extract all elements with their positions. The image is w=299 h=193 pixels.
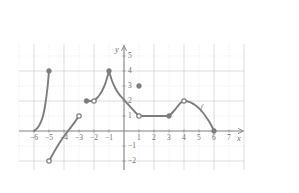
x-tick-label: 7 xyxy=(227,134,231,142)
closed-point-marker xyxy=(107,69,112,74)
open-point-marker xyxy=(137,114,141,118)
x-tick-label: 3 xyxy=(167,134,171,142)
x-tick-label: 6 xyxy=(212,134,216,142)
closed-point-marker xyxy=(47,69,52,74)
open-point-marker xyxy=(77,114,81,118)
x-tick-label: −3 xyxy=(75,134,83,142)
x-tick-label: 1 xyxy=(137,134,141,142)
x-tick-label: −2 xyxy=(90,134,98,142)
open-point-marker xyxy=(92,99,96,103)
graph-figure: −6−5−4−3−2−1123456754321−1−2xyf xyxy=(0,0,299,193)
curve-name-label: f xyxy=(201,103,203,111)
y-axis-label: y xyxy=(115,45,119,53)
curve-branch xyxy=(94,71,109,101)
open-point-marker xyxy=(47,159,51,163)
x-tick-label: −6 xyxy=(30,134,38,142)
x-tick-label: 2 xyxy=(152,134,156,142)
x-tick-label: −5 xyxy=(45,134,53,142)
y-tick-label: 4 xyxy=(128,67,132,75)
closed-point-marker xyxy=(137,84,142,89)
x-tick-label: −1 xyxy=(105,134,113,142)
y-tick-label: 3 xyxy=(128,82,132,90)
x-axis-label: x xyxy=(237,134,241,142)
y-tick-label: 1 xyxy=(128,112,132,120)
y-tick-label: 2 xyxy=(128,97,132,105)
x-tick-label: −4 xyxy=(60,134,68,142)
open-point-marker xyxy=(182,99,186,103)
closed-point-marker xyxy=(167,114,172,119)
graph-canvas xyxy=(0,0,299,193)
x-tick-label: 5 xyxy=(197,134,201,142)
x-tick-label: 4 xyxy=(182,134,186,142)
closed-point-marker xyxy=(84,99,89,104)
y-tick-label: −1 xyxy=(128,142,136,150)
y-tick-label: −2 xyxy=(128,157,136,165)
y-tick-label: 5 xyxy=(128,52,132,60)
